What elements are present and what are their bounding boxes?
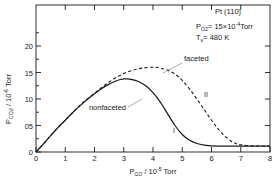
chart-svg: 0 05 10 15 20 0 1 — [0, 0, 280, 178]
x-tick-label: 5 — [180, 154, 184, 163]
x-axis-label-unit: Torr — [162, 167, 177, 176]
y-tick-label: 20 — [25, 42, 33, 51]
x-axis-label-sub: CO — [135, 171, 143, 177]
svg-text:PCO / 10-5 Torr: PCO / 10-5 Torr — [130, 166, 177, 177]
x-axis-label-div: / 10 — [142, 167, 157, 176]
y-tick-label: 05 — [25, 122, 33, 131]
y-tick-label: 0 — [29, 148, 33, 157]
y-axis-label-div: / 10 — [4, 94, 13, 109]
annotation-block: Pt (110) — [215, 7, 242, 16]
y-axis-label: PCO2 / 10-6 Torr — [3, 74, 14, 124]
oxygen-pressure-mult: ×10 — [223, 22, 236, 31]
oxygen-pressure-eq: = 15 — [208, 22, 223, 31]
x-tick-label: 4 — [151, 154, 155, 163]
y-tick-label: 10 — [25, 95, 33, 104]
svg-text:PCO2 / 10-6 Torr: PCO2 / 10-6 Torr — [3, 74, 14, 124]
curve-id-II: II — [204, 91, 208, 98]
nonfaceted-label: nonfaceted — [89, 103, 126, 112]
x-tick-label: 1 — [63, 154, 67, 163]
y-tick-label: 15 — [25, 69, 33, 78]
x-tick-label: 2 — [92, 154, 96, 163]
material-label: Pt (110) — [215, 7, 242, 16]
figure-panel: 0 05 10 15 20 0 1 — [0, 0, 280, 178]
y-axis-label-unit: Torr — [4, 74, 13, 89]
oxygen-pressure-unit: Torr — [240, 22, 253, 31]
y-axis-label-sub: CO — [8, 111, 14, 119]
x-tick-label: 3 — [122, 154, 126, 163]
temperature-eq: = 480 K — [203, 33, 229, 42]
x-tick-label: 7 — [239, 154, 243, 163]
x-tick-label: 0 — [34, 154, 38, 163]
curve-id-I: I — [173, 127, 175, 134]
x-tick-label: 8 — [268, 154, 272, 163]
faceted-label: faceted — [184, 54, 209, 63]
y-tick-labels: 0 05 10 15 20 — [25, 42, 33, 157]
x-tick-labels: 0 1 2 3 4 5 6 7 8 — [34, 154, 272, 163]
x-axis-label: PCO / 10-5 Torr — [130, 166, 177, 177]
x-tick-label: 6 — [209, 154, 213, 163]
